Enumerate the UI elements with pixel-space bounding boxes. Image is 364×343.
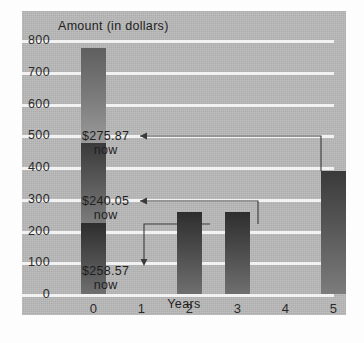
y-tick-200: 200	[28, 224, 50, 238]
y-tick-600: 600	[28, 97, 50, 111]
y-tick-700: 700	[28, 65, 50, 79]
x-axis-label: Years	[167, 297, 201, 311]
y-tick-0: 0	[43, 287, 50, 301]
y-tick-500: 500	[28, 128, 50, 142]
y-tick-300: 300	[28, 192, 50, 206]
annotation-240-05: $240.05 now	[82, 194, 129, 222]
annotation-275-87-amount: $275.87	[82, 129, 129, 143]
gridline-700	[22, 72, 334, 75]
bar-year-3	[225, 212, 250, 294]
bar-fill-year-5	[321, 171, 346, 294]
x-tick-0: 0	[90, 301, 98, 315]
gridline-600	[22, 104, 334, 107]
gridline-300	[22, 199, 334, 202]
x-tick-3: 3	[234, 301, 242, 315]
bar-year-0	[81, 48, 106, 294]
plot-area: 800 700 600 500 400 300 200 100 0	[56, 40, 334, 294]
bar-year-5	[321, 171, 346, 294]
bar-fill-year-2	[177, 212, 202, 294]
y-axis-title: Amount (in dollars)	[58, 19, 169, 33]
y-tick-800: 800	[28, 33, 50, 47]
annotation-258-57: $258.57 now	[82, 264, 129, 292]
gridline-500	[22, 135, 334, 138]
annotation-240-05-now: now	[82, 208, 129, 222]
y-tick-100: 100	[28, 255, 50, 269]
gridline-800	[22, 40, 334, 43]
chart-image: Amount (in dollars) 800 700 600 500 400 …	[0, 0, 364, 343]
x-tick-5: 5	[330, 301, 338, 315]
annotation-258-57-amount: $258.57	[82, 264, 129, 278]
bar-fill-year-3	[225, 212, 250, 294]
y-tick-400: 400	[28, 160, 50, 174]
x-tick-1: 1	[138, 301, 146, 315]
annotation-275-87: $275.87 now	[82, 129, 129, 157]
chart-panel: Amount (in dollars) 800 700 600 500 400 …	[22, 11, 346, 315]
annotation-258-57-now: now	[82, 278, 129, 292]
annotation-275-87-now: now	[82, 143, 129, 157]
gridline-400	[22, 167, 334, 170]
bar-year-2	[177, 212, 202, 294]
annotation-240-05-amount: $240.05	[82, 194, 129, 208]
x-tick-4: 4	[282, 301, 290, 315]
